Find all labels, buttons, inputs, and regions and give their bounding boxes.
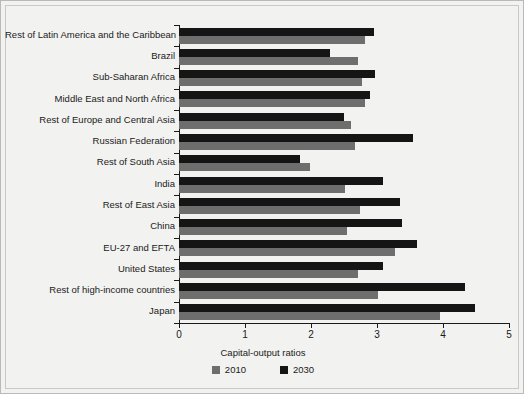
bar-2010-0 (179, 36, 365, 44)
y-tick-12 (174, 280, 179, 281)
legend-label-2010: 2010 (225, 364, 246, 375)
x-tick-label-1: 1 (230, 329, 260, 340)
x-tick-label-0: 0 (164, 329, 194, 340)
category-label-0: Rest of Latin America and the Caribbean (5, 30, 175, 40)
category-label-10: EU-27 and EFTA (5, 243, 175, 253)
bar-2010-4 (179, 121, 351, 129)
bar-2030-0 (179, 28, 374, 36)
y-tick-13 (174, 302, 179, 303)
bar-2030-7 (179, 177, 383, 185)
y-tick-6 (174, 153, 179, 154)
category-label-7: India (5, 179, 175, 189)
x-tick-4 (443, 323, 444, 328)
x-tick-2 (311, 323, 312, 328)
bar-2010-11 (179, 270, 358, 278)
bar-2010-7 (179, 185, 345, 193)
bar-2010-1 (179, 57, 358, 65)
category-label-8: Rest of East Asia (5, 200, 175, 210)
x-tick-label-2: 2 (296, 329, 326, 340)
y-tick-5 (174, 131, 179, 132)
x-axis-line (179, 323, 510, 324)
category-label-5: Russian Federation (5, 136, 175, 146)
category-axis-labels: Rest of Latin America and the CaribbeanB… (1, 1, 175, 394)
bar-2010-3 (179, 99, 365, 107)
bar-2010-5 (179, 142, 355, 150)
y-tick-14 (174, 323, 179, 324)
y-tick-7 (174, 174, 179, 175)
bar-2030-2 (179, 70, 375, 78)
category-label-13: Japan (5, 306, 175, 316)
bar-2030-12 (179, 283, 465, 291)
bar-2030-13 (179, 304, 475, 312)
y-tick-11 (174, 259, 179, 260)
category-label-11: United States (5, 264, 175, 274)
y-tick-0 (174, 25, 179, 26)
category-label-6: Rest of South Asia (5, 157, 175, 167)
x-tick-3 (377, 323, 378, 328)
legend-label-2030: 2030 (293, 364, 314, 375)
x-tick-label-4: 4 (428, 329, 458, 340)
bar-2010-2 (179, 78, 362, 86)
legend-title: Capital-output ratios (1, 347, 524, 358)
bar-2010-9 (179, 227, 347, 235)
legend: 2010 2030 (1, 364, 524, 375)
y-tick-10 (174, 238, 179, 239)
bar-2010-8 (179, 206, 360, 214)
category-label-12: Rest of high-income countries (5, 285, 175, 295)
chart-figure: Rest of Latin America and the CaribbeanB… (0, 0, 524, 394)
x-tick-5 (509, 323, 510, 328)
bar-2030-10 (179, 240, 417, 248)
y-tick-9 (174, 217, 179, 218)
category-label-2: Sub-Saharan Africa (5, 72, 175, 82)
bar-2010-10 (179, 248, 395, 256)
legend-item-2010[interactable]: 2010 (212, 364, 246, 375)
legend-swatch-2030-icon (280, 366, 288, 374)
bar-2030-9 (179, 219, 402, 227)
legend-item-2030[interactable]: 2030 (280, 364, 314, 375)
y-tick-4 (174, 110, 179, 111)
bar-2010-12 (179, 291, 378, 299)
x-tick-label-5: 5 (494, 329, 524, 340)
y-tick-3 (174, 89, 179, 90)
bar-2030-1 (179, 49, 330, 57)
bar-2010-6 (179, 163, 310, 171)
bar-2030-6 (179, 155, 300, 163)
bar-2030-5 (179, 134, 413, 142)
x-tick-0 (179, 323, 180, 328)
bar-2030-4 (179, 113, 344, 121)
x-tick-1 (245, 323, 246, 328)
y-tick-2 (174, 68, 179, 69)
category-label-1: Brazil (5, 51, 175, 61)
y-tick-1 (174, 46, 179, 47)
bar-2030-8 (179, 198, 400, 206)
legend-swatch-2010-icon (212, 366, 220, 374)
bar-2030-11 (179, 262, 383, 270)
x-tick-label-3: 3 (362, 329, 392, 340)
bar-2030-3 (179, 91, 370, 99)
bar-2010-13 (179, 312, 440, 320)
category-label-9: China (5, 221, 175, 231)
category-label-4: Rest of Europe and Central Asia (5, 115, 175, 125)
y-tick-8 (174, 195, 179, 196)
category-label-3: Middle East and North Africa (5, 94, 175, 104)
